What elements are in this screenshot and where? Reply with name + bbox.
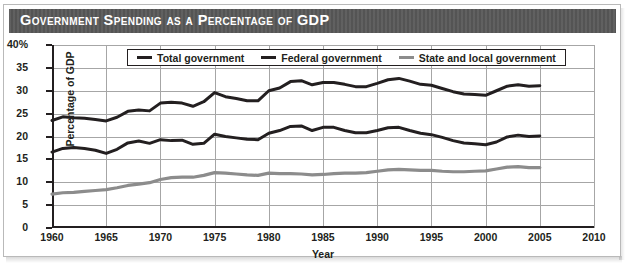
y-tick-label: 35 — [16, 61, 28, 73]
y-tick-label: 15 — [16, 152, 28, 164]
x-tick-label: 1975 — [185, 231, 245, 243]
y-tick-label: 5 — [22, 198, 28, 210]
x-tick-label: 1960 — [22, 231, 82, 243]
legend-line-icon — [399, 56, 414, 59]
legend-item[interactable]: Total government — [137, 52, 244, 64]
legend-label: Total government — [157, 52, 244, 64]
legend-item[interactable]: State and local government — [399, 52, 556, 64]
y-tick-label: 10 — [16, 175, 28, 187]
x-tick-label: 2010 — [564, 231, 624, 243]
chart-figure: Government Spending as a Percentage of G… — [0, 0, 628, 273]
page-title: Government Spending as a Percentage of G… — [20, 12, 330, 28]
y-tick-label: 20 — [16, 130, 28, 142]
series-line — [52, 167, 540, 194]
legend-label: State and local government — [419, 52, 556, 64]
x-tick-label: 2000 — [456, 231, 516, 243]
x-axis-label: Year — [52, 248, 594, 260]
series-line — [52, 126, 540, 153]
y-tick-label: 30 — [16, 84, 28, 96]
legend-line-icon — [261, 56, 276, 59]
gridline-vertical — [594, 45, 595, 228]
x-tick-label: 1970 — [130, 231, 190, 243]
x-tick-label: 1980 — [239, 231, 299, 243]
legend-item[interactable]: Federal government — [261, 52, 381, 64]
y-axis-label: Percentage of GDP — [64, 39, 76, 159]
x-tick-label: 1990 — [347, 231, 407, 243]
legend-line-icon — [137, 56, 152, 59]
plot-area: 0510152025303540% 1960196519701975198019… — [52, 45, 594, 228]
legend-label: Federal government — [281, 52, 381, 64]
x-tick-label: 1985 — [293, 231, 353, 243]
x-tick-label: 2005 — [510, 231, 570, 243]
series-lines — [52, 45, 594, 228]
x-tick-label: 1965 — [76, 231, 136, 243]
title-banner: Government Spending as a Percentage of G… — [9, 9, 616, 33]
y-tick-label: 40% — [7, 38, 28, 50]
chart-legend: Total governmentFederal governmentState … — [127, 49, 566, 66]
x-tick-label: 1995 — [401, 231, 461, 243]
y-tick-label: 25 — [16, 107, 28, 119]
series-line — [52, 78, 540, 121]
